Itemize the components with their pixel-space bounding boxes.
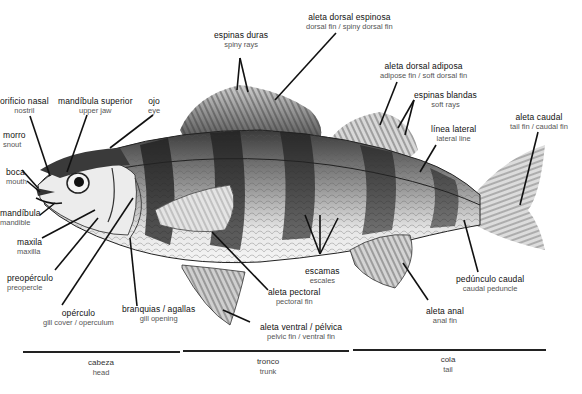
label-eye: ojo eye [148,96,160,116]
label-pectoral-fin: aleta pectoral pectoral fin [268,287,320,307]
label-operculum: opérculo gill cover / operculum [43,308,114,328]
label-en: escales [305,276,340,286]
label-en: gill cover / operculum [43,318,114,328]
label-es: opérculo [43,308,114,318]
label-es: maxila [17,237,42,247]
label-scales: escamas escales [305,266,340,286]
label-en: mouth [6,177,27,187]
region-es: cabeza [76,358,126,368]
region-bar-tail [353,349,546,351]
label-en: preopercle [7,283,53,293]
label-caudal-fin: aleta caudal tail fin / caudal fin [510,112,568,132]
region-bar-head [23,351,180,353]
label-en: maxilla [17,247,42,257]
region-tail: cola tail [423,355,473,375]
label-mouth: boca mouth [6,167,27,187]
label-es: espinas blandas [414,90,477,100]
label-snout: morro snout [3,130,26,150]
label-es: aleta pectoral [268,287,320,297]
label-en: mandible [0,218,41,228]
label-en: dorsal fin / spiny dorsal fin [306,22,393,32]
label-en: pectoral fin [268,297,320,307]
label-en: spiny rays [214,40,268,50]
label-es: aleta ventral / pélvica [260,322,342,332]
region-es: cola [423,355,473,365]
label-soft-rays: espinas blandas soft rays [414,90,477,110]
label-preopercle: preopérculo preopercle [7,273,53,293]
label-es: escamas [305,266,340,276]
fish-anatomy-diagram: orificio nasal nostril mandíbula superio… [0,0,582,394]
label-en: gill opening [122,314,195,324]
region-es: tronco [243,357,293,367]
label-es: aleta caudal [510,112,568,122]
label-es: branquias / agallas [122,304,195,314]
label-es: aleta anal [426,306,464,316]
label-upper-jaw: mandíbula superior upper jaw [58,96,133,116]
label-en: adipose fin / soft dorsal fin [380,71,467,81]
region-en: head [76,368,126,378]
region-en: trunk [243,367,293,377]
label-en: soft rays [414,100,477,110]
label-maxilla: maxila maxilla [17,237,42,257]
label-lateral-line: línea lateral lateral line [431,124,476,144]
label-es: aleta dorsal espinosa [306,12,393,22]
region-trunk: tronco trunk [243,357,293,377]
label-en: caudal peduncle [456,284,524,294]
label-mandible: mandíbula mandible [0,208,41,228]
label-es: mandíbula [0,208,41,218]
label-en: pelvic fin / ventral fin [260,332,342,342]
label-adipose-fin: aleta dorsal adiposa adipose fin / soft … [380,61,467,81]
label-en: anal fin [426,316,464,326]
region-en: tail [423,365,473,375]
label-nostril: orificio nasal nostril [0,96,49,116]
label-pelvic-fin: aleta ventral / pélvica pelvic fin / ven… [260,322,342,342]
label-en: nostril [0,106,49,116]
label-en: lateral line [431,134,476,144]
region-head: cabeza head [76,358,126,378]
label-es: pedúnculo caudal [456,274,524,284]
label-en: tail fin / caudal fin [510,122,568,132]
label-es: aleta dorsal adiposa [380,61,467,71]
label-spiny-rays: espinas duras spiny rays [214,30,268,50]
label-spiny-dorsal-fin: aleta dorsal espinosa dorsal fin / spiny… [306,12,393,32]
label-es: morro [3,130,26,140]
region-bar-trunk [183,350,349,352]
label-en: eye [148,106,160,116]
label-es: espinas duras [214,30,268,40]
caudal-fin [470,145,545,250]
label-caudal-peduncle: pedúnculo caudal caudal peduncle [456,274,524,294]
fish-head [36,148,141,238]
label-anal-fin: aleta anal anal fin [426,306,464,326]
label-es: ojo [148,96,160,106]
label-gill-opening: branquias / agallas gill opening [122,304,195,324]
label-es: línea lateral [431,124,476,134]
label-es: orificio nasal [0,96,49,106]
label-en: upper jaw [58,106,133,116]
label-es: boca [6,167,27,177]
label-en: snout [3,140,26,150]
label-es: preopérculo [7,273,53,283]
label-es: mandíbula superior [58,96,133,106]
